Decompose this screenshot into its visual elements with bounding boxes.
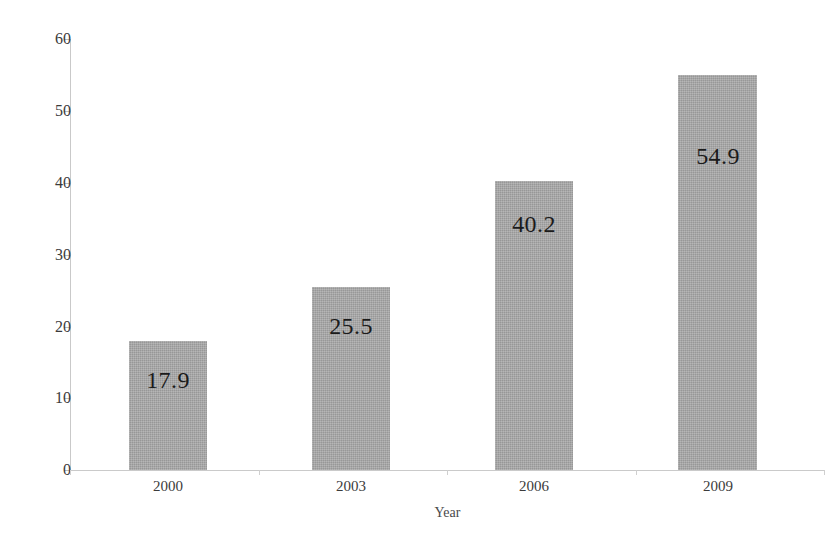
x-category-label-2006: 2006: [479, 478, 589, 495]
y-tick-label: 40: [27, 175, 71, 191]
y-tick-label: 30: [27, 247, 71, 263]
y-tick-label: 0: [27, 462, 71, 478]
x-tick-mark: [636, 470, 637, 475]
x-tick-mark: [824, 470, 825, 475]
y-tick-label: 50: [27, 103, 71, 119]
x-category-label-2003: 2003: [296, 478, 406, 495]
y-tick-label: 60: [27, 31, 71, 47]
bar-value-2006: 40.2: [479, 212, 589, 236]
x-category-label-2009: 2009: [663, 478, 773, 495]
x-category-label-2000: 2000: [113, 478, 223, 495]
y-tick-label: 20: [27, 319, 71, 335]
bar-value-2009: 54.9: [663, 144, 773, 168]
y-tick-label: 10: [27, 390, 71, 406]
bar-2009: [678, 75, 757, 470]
bar-chart: Revenue in Billion u$ 0 10 20 30 40 50 6…: [0, 0, 828, 537]
bar-value-2000: 17.9: [113, 368, 223, 392]
bar-value-2003: 25.5: [296, 314, 406, 338]
x-tick-mark: [259, 470, 260, 475]
x-tick-mark: [447, 470, 448, 475]
x-axis-title: Year: [70, 505, 825, 521]
bar-2000: [129, 341, 207, 470]
x-tick-mark: [70, 470, 71, 475]
